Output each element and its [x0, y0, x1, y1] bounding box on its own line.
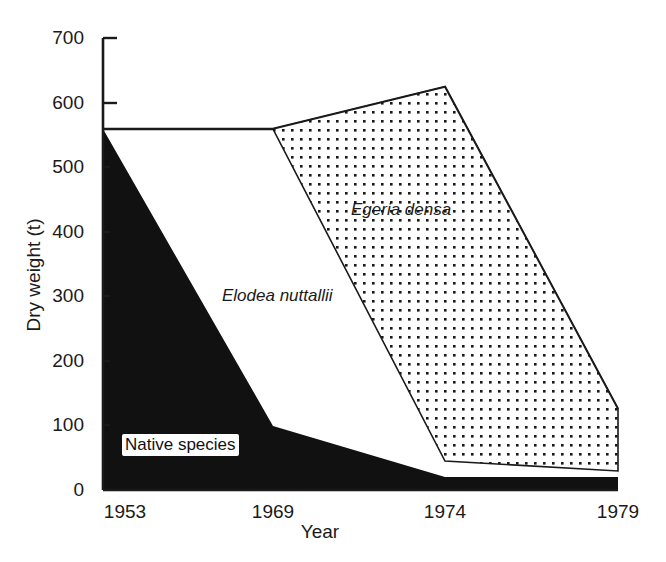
- y-tick-label-0: 0: [20, 479, 84, 501]
- series-label-elodea-nuttallii: Elodea nuttallii: [222, 286, 333, 306]
- x-tick-label-1953: 1953: [104, 501, 146, 523]
- x-tick-label-1974: 1974: [424, 501, 466, 523]
- y-tick-label-700: 700: [20, 27, 84, 49]
- x-tick-label-1969: 1969: [252, 501, 294, 523]
- series-label-native-species: Native species: [122, 434, 239, 456]
- chart-plot-area: [0, 0, 666, 562]
- chart-figure: 700 600 500 400 300 200 100 0 1953 1969 …: [0, 0, 666, 562]
- y-tick-label-100: 100: [20, 414, 84, 436]
- series-label-egeria-densa: Egeria densa: [351, 200, 451, 220]
- y-tick-label-600: 600: [20, 92, 84, 114]
- x-axis-title: Year: [260, 521, 380, 543]
- x-tick-label-1979: 1979: [597, 501, 639, 523]
- y-axis-title: Dry weight (t): [23, 175, 45, 375]
